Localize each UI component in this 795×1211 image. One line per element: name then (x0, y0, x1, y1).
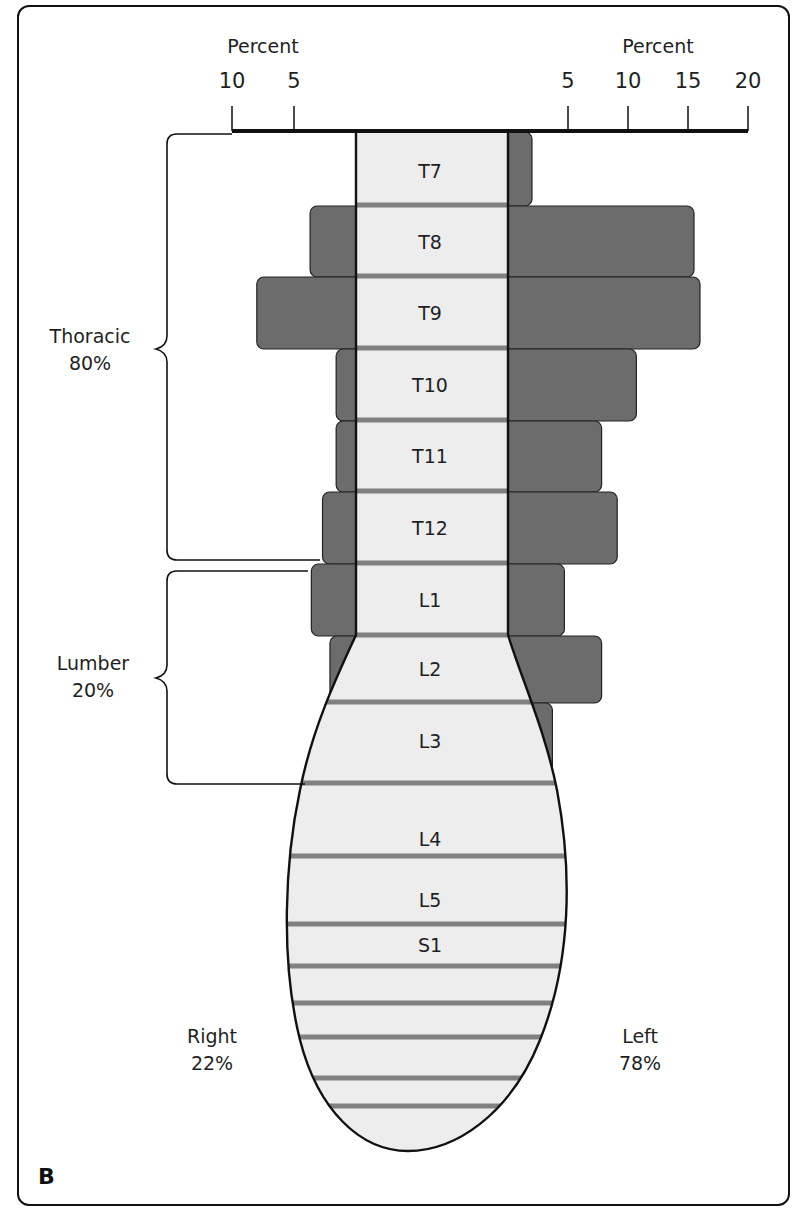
vertebra-label-t10: T10 (411, 374, 448, 396)
segment-separator (280, 854, 580, 859)
bar-right-side-t9 (257, 277, 364, 349)
tick-label: 5 (561, 69, 574, 93)
vertebra-label-l1: L1 (419, 589, 442, 611)
left-side-label: Left (622, 1025, 658, 1047)
segment-separator (280, 1001, 580, 1006)
thoracic-label: Thoracic (49, 325, 131, 347)
right-side-percent: 22% (191, 1052, 233, 1074)
vertebra-label-l5: L5 (419, 889, 442, 911)
thoracic-percent: 80% (69, 352, 111, 374)
vertebra-label-t11: T11 (411, 445, 448, 467)
vertebra-label-s1: S1 (418, 934, 442, 956)
segment-separator (280, 964, 580, 969)
vertebra-label-t12: T12 (411, 517, 448, 539)
tick-label: 15 (675, 69, 702, 93)
lumber-label: Lumber (57, 652, 130, 674)
bar-left-side-t9 (500, 277, 700, 349)
lumber-percent: 20% (72, 679, 114, 701)
tick-label: 20 (735, 69, 762, 93)
vertebra-label-t9: T9 (417, 302, 442, 324)
tick-label: 5 (287, 69, 300, 93)
axis-right-title: Percent (622, 35, 694, 57)
bar-left-side-t12 (500, 492, 617, 564)
spine-distribution-chart: T7T8T9T10T11T12L1L2L3L4L5S1 Percent Perc… (0, 0, 795, 1211)
vertebra-label-l2: L2 (419, 658, 442, 680)
bar-left-side-l1 (500, 564, 564, 636)
bar-left-side-t11 (500, 421, 602, 492)
segment-separator (280, 781, 580, 786)
bar-left-side-t8 (500, 206, 694, 277)
left-side-percent: 78% (619, 1052, 661, 1074)
axis-left-title: Percent (227, 35, 299, 57)
segment-separator (280, 1104, 580, 1109)
vertebra-label-l3: L3 (419, 730, 442, 752)
vertebra-label-l4: L4 (419, 828, 442, 850)
tick-label: 10 (615, 69, 642, 93)
lumber-brace (156, 571, 308, 784)
segment-separator (280, 922, 580, 927)
axis-ticks: 1055101520 (219, 69, 762, 131)
vertebra-label-t7: T7 (417, 160, 442, 182)
segment-separator (280, 1076, 580, 1081)
segment-separator (280, 1035, 580, 1040)
bar-left-side-t10 (500, 349, 636, 421)
right-side-label: Right (187, 1025, 237, 1047)
panel-letter: B (38, 1164, 55, 1189)
percent-axis: Percent Percent (227, 35, 748, 131)
tick-label: 10 (219, 69, 246, 93)
vertebra-label-t8: T8 (417, 231, 442, 253)
